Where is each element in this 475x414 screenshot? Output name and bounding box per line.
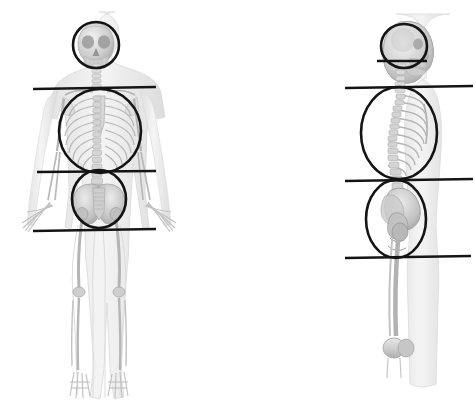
diagram-canvas	[0, 0, 475, 414]
anatomy-diagram-svg	[0, 0, 475, 414]
